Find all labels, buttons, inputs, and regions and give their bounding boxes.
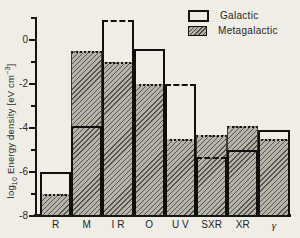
y-major-tick [29, 83, 36, 85]
metagalactic-swatch-icon [188, 26, 207, 36]
y-axis-label-suffix: ] [5, 64, 16, 67]
bar-galactic-SXR [196, 157, 227, 215]
y-tick-label: 0 [6, 34, 28, 45]
y-major-tick [29, 39, 36, 41]
bar-galactic-XR [227, 150, 258, 215]
y-tick-label: -2 [6, 78, 28, 89]
y-minor-tick [31, 105, 36, 107]
y-tick-label: -4 [6, 122, 28, 133]
y-minor-tick [31, 61, 36, 63]
bar-galactic-R [40, 172, 71, 215]
y-tick-label: -8 [6, 210, 28, 221]
y-minor-tick [31, 193, 36, 195]
legend: Galactic Metagalactic [188, 8, 278, 38]
x-axis-label-gamma: γ [254, 219, 293, 231]
y-axis-label-sup: −3 [4, 66, 11, 74]
y-axis-line [35, 17, 37, 217]
bar-galactic-gamma [258, 130, 289, 215]
y-minor-tick [31, 149, 36, 151]
y-major-tick [29, 215, 36, 217]
bar-galactic-O [134, 49, 165, 215]
y-axis-label-prefix: log [5, 185, 16, 198]
figure: log10 Energy density [eV cm−3] 0-2-4-6-8… [0, 0, 300, 238]
y-tick-label: -6 [6, 166, 28, 177]
legend-label-galactic: Galactic [220, 10, 259, 21]
galactic-swatch-icon [188, 10, 209, 22]
y-major-tick [29, 171, 36, 173]
y-major-tick [29, 127, 36, 129]
legend-item-galactic: Galactic [188, 8, 278, 23]
legend-label-metagalactic: Metagalactic [218, 25, 278, 36]
bar-galactic-M [71, 126, 102, 215]
bar-galactic-UV [165, 84, 196, 215]
y-minor-tick [31, 17, 36, 19]
bar-galactic-IR [102, 20, 133, 215]
y-axis-label-sub: 10 [11, 177, 18, 185]
legend-item-metagalactic: Metagalactic [188, 23, 278, 38]
